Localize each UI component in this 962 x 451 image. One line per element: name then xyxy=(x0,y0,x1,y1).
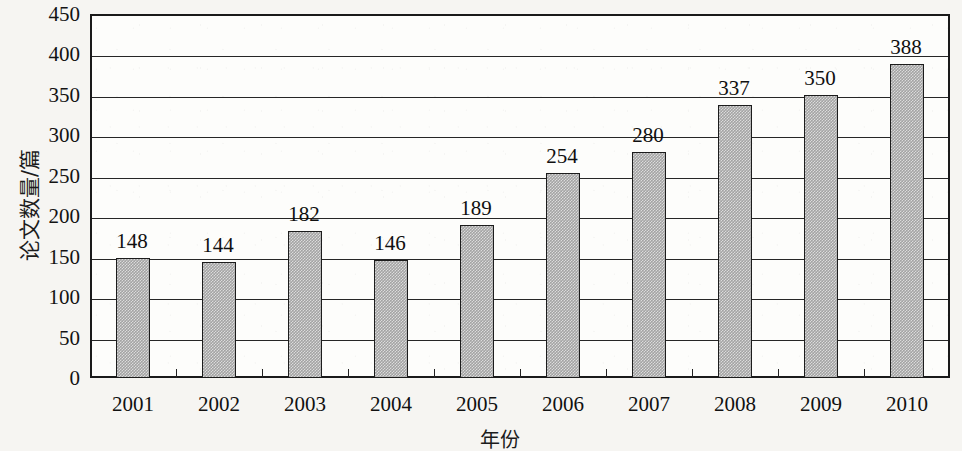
x-axis-tick xyxy=(778,369,779,378)
x-axis-tick xyxy=(434,369,435,378)
y-axis-tick-label: 400 xyxy=(20,44,80,65)
y-axis-tick-label: 100 xyxy=(20,287,80,308)
y-axis-tick-labels: 050100150200250300350400450 xyxy=(0,14,80,378)
bar-value-label: 280 xyxy=(598,125,698,146)
y-axis-tick-label: 0 xyxy=(20,368,80,389)
bar-group[interactable]: 254 xyxy=(546,14,580,378)
bar-group[interactable]: 189 xyxy=(460,14,494,378)
bar[interactable] xyxy=(116,258,150,378)
bar[interactable] xyxy=(632,152,666,378)
x-axis-tick xyxy=(606,369,607,378)
bar[interactable] xyxy=(288,231,322,378)
bars-layer: 148144182146189254280337350388 xyxy=(90,14,950,378)
bar-group[interactable]: 280 xyxy=(632,14,666,378)
bar-value-label: 350 xyxy=(770,68,870,89)
x-axis-tick xyxy=(520,369,521,378)
bar-group[interactable]: 350 xyxy=(804,14,838,378)
bar[interactable] xyxy=(890,64,924,378)
bar-group[interactable]: 388 xyxy=(890,14,924,378)
y-axis-tick-label: 200 xyxy=(20,206,80,227)
y-axis-tick-label: 450 xyxy=(20,4,80,25)
bar[interactable] xyxy=(374,260,408,378)
bar[interactable] xyxy=(804,95,838,378)
y-axis-tick-label: 50 xyxy=(20,327,80,348)
x-axis-tick xyxy=(348,369,349,378)
x-axis-tick xyxy=(262,369,263,378)
bar[interactable] xyxy=(718,105,752,378)
x-axis-title: 年份 xyxy=(0,424,962,451)
bar-value-label: 254 xyxy=(512,146,612,167)
bar-group[interactable]: 146 xyxy=(374,14,408,378)
x-axis-tick xyxy=(176,369,177,378)
bar-group[interactable]: 337 xyxy=(718,14,752,378)
bar-value-label: 144 xyxy=(168,235,268,256)
bar-group[interactable]: 148 xyxy=(116,14,150,378)
x-axis-tick xyxy=(692,369,693,378)
bar-value-label: 148 xyxy=(82,231,182,252)
bar-group[interactable]: 182 xyxy=(288,14,322,378)
y-axis-tick-label: 350 xyxy=(20,84,80,105)
x-axis-tick-label: 2010 xyxy=(847,394,962,415)
bar-value-label: 182 xyxy=(254,204,354,225)
bar-value-label: 337 xyxy=(684,78,784,99)
bar[interactable] xyxy=(546,173,580,378)
bar-value-label: 146 xyxy=(340,233,440,254)
bar[interactable] xyxy=(202,262,236,378)
bar-group[interactable]: 144 xyxy=(202,14,236,378)
bar[interactable] xyxy=(460,225,494,378)
y-axis-tick-label: 250 xyxy=(20,165,80,186)
bar-chart: 论文数量/篇 050100150200250300350400450 14814… xyxy=(0,0,962,451)
y-axis-tick-label: 300 xyxy=(20,125,80,146)
x-axis-tick xyxy=(864,369,865,378)
y-axis-tick-label: 150 xyxy=(20,246,80,267)
bar-value-label: 388 xyxy=(856,37,956,58)
bar-value-label: 189 xyxy=(426,198,526,219)
